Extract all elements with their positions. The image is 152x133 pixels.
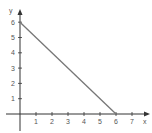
y-axis-label: y xyxy=(9,7,13,15)
axes xyxy=(6,9,150,131)
y-tick-label: 4 xyxy=(11,49,15,56)
x-tick-label: 3 xyxy=(66,118,70,125)
x-tick-label: 5 xyxy=(98,118,102,125)
x-tick-label: 4 xyxy=(82,118,86,125)
y-tick-label: 1 xyxy=(11,95,15,102)
y-tick-label: 6 xyxy=(11,19,15,26)
data-series xyxy=(20,22,116,114)
line-chart: 1234567123456 x y xyxy=(0,0,152,133)
x-tick-label: 1 xyxy=(34,118,38,125)
series-line xyxy=(20,22,116,114)
x-tick-label: 6 xyxy=(114,118,118,125)
y-axis-arrow-icon xyxy=(18,9,23,15)
y-tick-label: 5 xyxy=(11,34,15,41)
x-tick-label: 2 xyxy=(50,118,54,125)
x-axis-label: x xyxy=(143,118,147,125)
x-axis-arrow-icon xyxy=(144,112,150,117)
y-tick-label: 2 xyxy=(11,80,15,87)
x-tick-label: 7 xyxy=(130,118,134,125)
y-tick-label: 3 xyxy=(11,65,15,72)
